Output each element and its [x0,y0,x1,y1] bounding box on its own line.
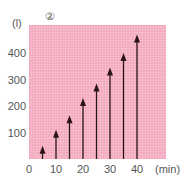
plot-area [29,25,166,159]
y-axis-unit: (l) [12,17,22,29]
y-tick-label: 100 [8,127,26,139]
chart: (l) ② (min) 100200300400 010203040 [0,0,195,183]
y-tick-label: 400 [8,47,26,59]
x-tick-label: 30 [104,163,116,175]
x-tick-label: 0 [26,163,32,175]
x-tick-label: 20 [77,163,89,175]
y-tick-label: 200 [8,100,26,112]
chart-title: ② [45,10,55,22]
x-ticks: 010203040 [26,163,143,175]
x-tick-label: 40 [131,163,143,175]
x-axis-unit: (min) [155,163,180,175]
y-tick-label: 300 [8,74,26,86]
y-ticks: 100200300400 [8,47,26,139]
x-tick-label: 10 [50,163,62,175]
